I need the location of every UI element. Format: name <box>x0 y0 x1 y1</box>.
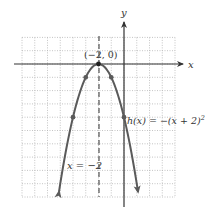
function-label-exponent: 2 <box>200 114 205 122</box>
vertex-label: (−2, 0) <box>84 49 118 60</box>
symmetry-label: x = −2 <box>67 160 102 171</box>
data-point <box>96 62 101 67</box>
function-label: h(x) = −(x + 2)2 <box>127 114 205 126</box>
parabola-graph: x y (−2, 0) x = −2 h(x) = −(x + 2)2 <box>0 0 210 212</box>
data-point <box>109 75 114 80</box>
x-axis-label: x <box>188 59 194 70</box>
data-point <box>83 75 88 80</box>
function-label-main: h(x) = −(x + 2) <box>127 115 201 126</box>
data-point <box>71 115 76 120</box>
data-point <box>122 115 127 120</box>
y-axis-label: y <box>120 7 127 18</box>
